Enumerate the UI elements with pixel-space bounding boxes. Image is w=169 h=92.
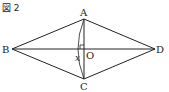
label-x: x [75, 53, 80, 63]
label-a: A [79, 7, 88, 18]
label-d: D [156, 44, 164, 55]
label-o: O [86, 50, 94, 61]
rhombus-diagram: A B C D O x [0, 0, 169, 92]
label-b: B [2, 44, 9, 55]
right-angle-mark [80, 45, 84, 49]
label-c: C [80, 81, 88, 92]
